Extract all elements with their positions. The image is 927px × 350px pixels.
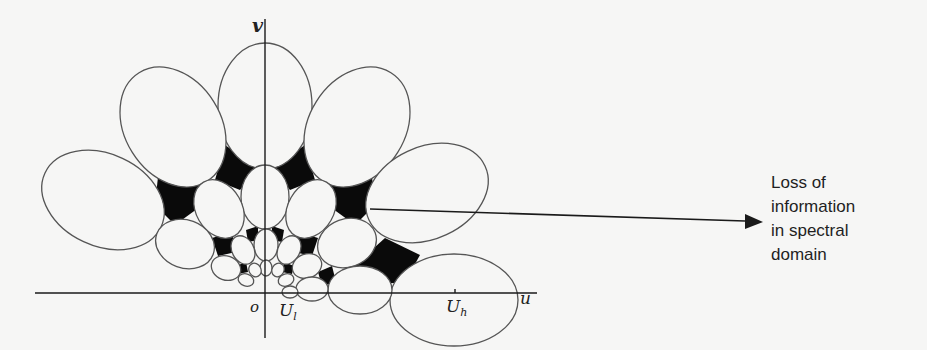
high-frequency-symbol: U: [446, 296, 460, 316]
loss-of-information-annotation: Loss of information in spectral domain: [771, 171, 921, 267]
frequency-tile-ellipses: [26, 43, 518, 346]
low-frequency-label: Ul: [279, 300, 297, 323]
vertical-axis-label: v: [252, 14, 263, 36]
horizontal-axis-label: u: [520, 288, 531, 308]
annotation-line: domain: [771, 243, 921, 267]
tile-inner-bottom-right: [296, 277, 328, 301]
annotation-line: information: [771, 195, 921, 219]
origin-label: o: [250, 298, 259, 316]
annotation-line: Loss of: [771, 171, 921, 195]
low-frequency-subscript: l: [293, 310, 297, 323]
high-frequency-subscript: h: [460, 306, 467, 319]
high-frequency-label: Uh: [446, 296, 467, 319]
annotation-line: in spectral: [771, 219, 921, 243]
low-frequency-symbol: U: [279, 300, 293, 320]
tile-core-bottom-right: [282, 286, 298, 298]
tile-inner-center: [254, 229, 278, 261]
tile-mid-bottom-right: [328, 266, 392, 314]
tile-core-center: [260, 260, 272, 276]
